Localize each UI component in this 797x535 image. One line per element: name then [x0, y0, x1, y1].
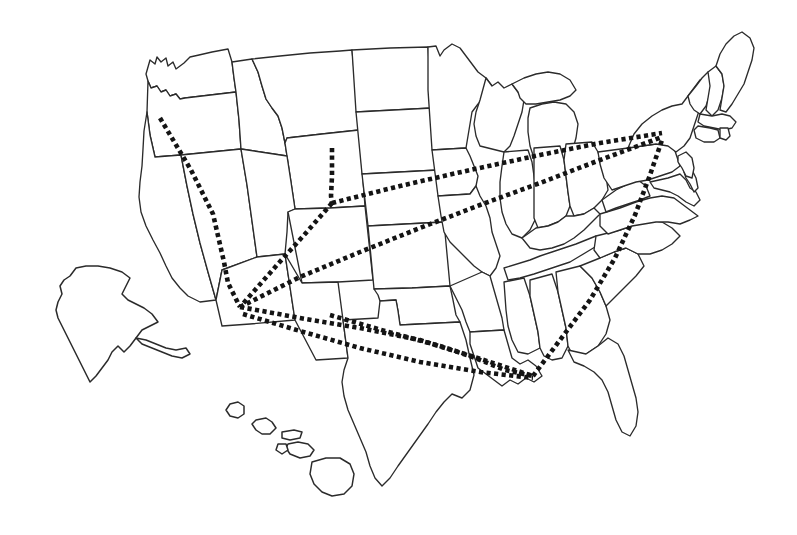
us-route-map-figure — [0, 0, 797, 535]
hawaii-lanai — [276, 444, 288, 454]
state-maine — [716, 32, 754, 112]
state-michigan-upper — [512, 72, 576, 104]
alaska-aleutian-chain — [136, 338, 190, 358]
hawaii-inset — [226, 402, 354, 496]
hawaii-molokai — [282, 430, 302, 440]
state-rhode-island — [720, 128, 730, 140]
state-wyoming — [285, 130, 365, 209]
state-north-dakota — [352, 47, 432, 112]
hawaii-big-island — [310, 458, 354, 496]
map-canvas — [0, 0, 797, 535]
state-colorado — [288, 206, 373, 283]
hawaii-kauai — [226, 402, 244, 418]
state-outlines-layer — [139, 32, 754, 486]
state-iowa — [432, 148, 478, 196]
hawaii-maui — [286, 442, 314, 458]
alaska-inset — [56, 266, 190, 382]
state-alaska — [56, 266, 158, 382]
state-florida — [568, 338, 638, 436]
hawaii-oahu — [252, 418, 276, 434]
state-south-dakota — [356, 108, 438, 174]
